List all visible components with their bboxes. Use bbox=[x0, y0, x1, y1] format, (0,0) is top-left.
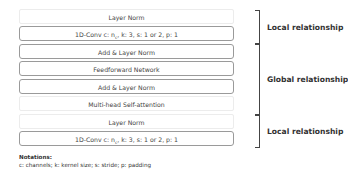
notations-title: Notations: bbox=[19, 153, 151, 161]
notations: Notations: c: channels; k: kernel size; … bbox=[19, 153, 151, 169]
block-label: Multi-head Self-attention bbox=[88, 101, 165, 108]
block-label-rest: , k: 3, s: 1 or 2, p: 1 bbox=[117, 31, 178, 38]
group-label-local-bottom: Local relationship bbox=[267, 127, 343, 136]
block-label: Add & Layer Norm bbox=[98, 49, 155, 56]
block-label-rest: , k: 3, s: 1 or 2, p: 1 bbox=[117, 136, 178, 143]
add-layer-norm-block-1: Add & Layer Norm bbox=[19, 44, 234, 59]
conv1d-block-top: 1D-Conv c: nc, k: 3, s: 1 or 2, p: 1 bbox=[19, 26, 234, 41]
notations-text: c: channels; k: kernel size; s: stride; … bbox=[19, 161, 151, 169]
group-label-local-top: Local relationship bbox=[267, 23, 343, 32]
layer-norm-block-bottom: Layer Norm bbox=[19, 114, 234, 129]
block-label: Layer Norm bbox=[108, 119, 144, 126]
layer-norm-block-top: Layer Norm bbox=[19, 9, 234, 24]
self-attention-block: Multi-head Self-attention bbox=[19, 96, 234, 111]
block-label: Add & Layer Norm bbox=[98, 84, 155, 91]
block-label: Layer Norm bbox=[108, 14, 144, 21]
block-label: 1D-Conv c: n bbox=[75, 31, 115, 38]
group-label-global: Global relationship bbox=[267, 75, 348, 84]
conv1d-block-bottom: 1D-Conv c: nc, k: 3, s: 1 or 2, p: 1 bbox=[19, 131, 234, 146]
feedforward-block: Feedforward Network bbox=[19, 61, 234, 76]
add-layer-norm-block-2: Add & Layer Norm bbox=[19, 79, 234, 94]
bracket-local-bottom bbox=[255, 114, 260, 148]
bracket-global bbox=[255, 44, 260, 116]
block-label: 1D-Conv c: n bbox=[75, 136, 115, 143]
bracket-local-top bbox=[255, 10, 260, 44]
block-label: Feedforward Network bbox=[93, 66, 159, 73]
